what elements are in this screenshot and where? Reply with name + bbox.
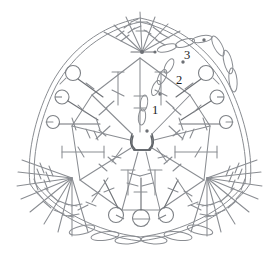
crochet-pattern-diagram: 1 2 3 bbox=[0, 0, 279, 253]
label-3: 3 bbox=[184, 48, 190, 62]
pattern-svg-canvas: 1 2 3 bbox=[0, 0, 279, 253]
bottom-left-corner-fan bbox=[17, 160, 88, 236]
label-2: 2 bbox=[176, 73, 182, 87]
label-1: 1 bbox=[152, 103, 158, 117]
bottom-picot-cluster bbox=[104, 178, 178, 227]
top-right-chain-ovals bbox=[156, 34, 238, 92]
mid-left-stitch-bar-group bbox=[62, 72, 124, 158]
bottom-right-corner-fan bbox=[191, 160, 262, 236]
upper-right-picot-cluster bbox=[176, 66, 233, 131]
magic-ring-center bbox=[131, 134, 154, 150]
